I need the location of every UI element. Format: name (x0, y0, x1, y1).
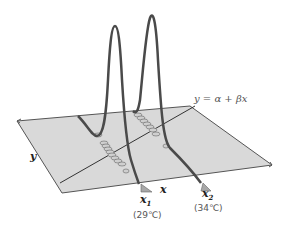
x-axis-label: x (160, 183, 167, 196)
marker-x1 (141, 184, 152, 192)
x1-temperature: (29℃) (133, 210, 162, 220)
x2-subscript: 2 (209, 193, 214, 202)
regression-equation-label: y = α + βx (194, 93, 247, 104)
x2-label: x2 (202, 187, 213, 202)
x1-label: x1 (140, 193, 151, 208)
y-axis-label: y (30, 150, 36, 163)
x1-subscript: 1 (147, 199, 152, 208)
x2-temperature: (34℃) (194, 203, 223, 213)
